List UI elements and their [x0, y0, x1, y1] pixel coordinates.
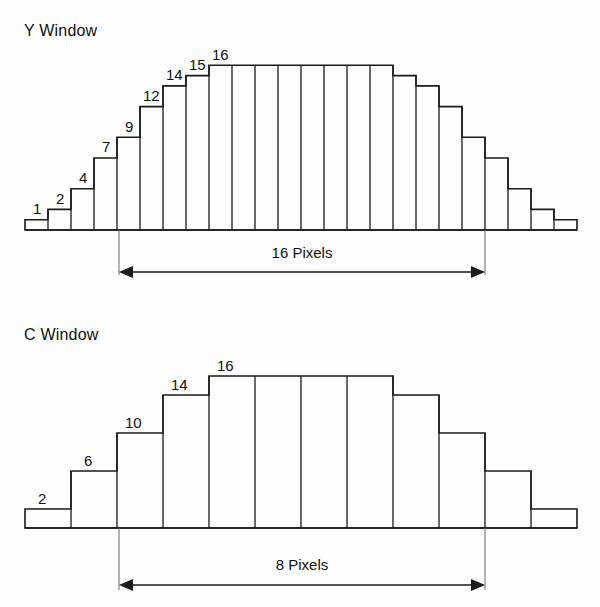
- c-window-plot: 2 6 10 14 16 8 Pixels: [0, 300, 600, 607]
- c-window-value-labels: 2 6 10 14 16: [38, 357, 234, 507]
- y-dimension-label: 16 Pixels: [272, 244, 333, 261]
- c-bar-label-14: 14: [171, 376, 188, 393]
- y-bar-label-7: 7: [102, 138, 110, 155]
- dim-arrow-left: [119, 266, 133, 278]
- c-window-steps: [25, 376, 577, 528]
- c-dimension-label: 8 Pixels: [276, 556, 329, 573]
- y-bar-label-4: 4: [79, 169, 87, 186]
- c-bar-label-6: 6: [84, 452, 92, 469]
- c-bar-label-2: 2: [38, 490, 46, 507]
- y-window-bar-dividers: [48, 65, 554, 230]
- y-bar-label-1: 1: [33, 200, 41, 217]
- y-bar-label-14: 14: [166, 66, 183, 83]
- dim-arrow-left: [119, 579, 133, 591]
- y-window-plot: 1 2 4 7 9 12 14 15 16 16 Pixels: [0, 0, 600, 300]
- y-bar-label-15: 15: [189, 56, 206, 73]
- y-bar-label-9: 9: [125, 118, 133, 135]
- c-bar-label-10: 10: [125, 414, 142, 431]
- diagram-canvas: Y Window: [0, 0, 600, 607]
- c-window-dimension: 8 Pixels: [119, 528, 485, 591]
- y-bar-label-12: 12: [143, 87, 160, 104]
- y-window-value-labels: 1 2 4 7 9 12 14 15 16: [33, 46, 229, 217]
- c-window-bar-dividers: [71, 376, 531, 528]
- y-window-dimension: 16 Pixels: [119, 230, 485, 278]
- c-bar-label-16: 16: [217, 357, 234, 374]
- y-bar-label-16: 16: [212, 46, 229, 63]
- dim-arrow-right: [471, 266, 485, 278]
- y-bar-label-2: 2: [56, 190, 64, 207]
- dim-arrow-right: [471, 579, 485, 591]
